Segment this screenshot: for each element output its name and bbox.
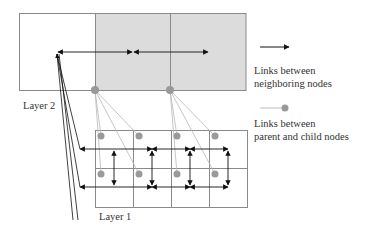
legend-parent-child-line2: parent and child nodes bbox=[254, 130, 349, 143]
layer1-label: Layer 1 bbox=[99, 210, 131, 223]
dot-line-icon bbox=[260, 105, 289, 112]
layer1-nodes bbox=[98, 133, 219, 178]
legend-neighbor-line2: neighboring nodes bbox=[254, 77, 332, 90]
cross-layer-links bbox=[57, 54, 80, 220]
legend-parent-child-line1: Links between bbox=[254, 117, 316, 130]
diagram-canvas bbox=[0, 0, 367, 232]
parent-child-links bbox=[95, 90, 215, 174]
layer1-grid bbox=[95, 130, 248, 208]
layer2-grid bbox=[20, 13, 247, 91]
legend-neighbor-line1: Links between bbox=[254, 64, 316, 77]
layer2-label: Layer 2 bbox=[23, 99, 55, 112]
